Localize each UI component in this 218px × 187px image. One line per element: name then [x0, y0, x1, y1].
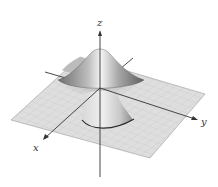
y-axis-label: y	[200, 116, 207, 127]
z-axis-arrow-icon	[98, 30, 102, 36]
y-axis-arrow-icon	[191, 116, 198, 120]
surface-plot: x y z	[0, 0, 218, 187]
x-axis-label: x	[33, 142, 39, 153]
z-axis-label: z	[96, 17, 103, 28]
